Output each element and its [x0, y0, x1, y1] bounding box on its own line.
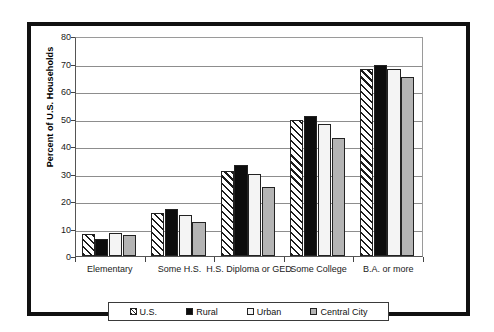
legend-label: U.S.	[140, 307, 158, 317]
y-tick-label-30: 30	[45, 171, 71, 180]
y-tick-label-50: 50	[45, 116, 71, 125]
bar	[221, 171, 234, 256]
bar-group	[285, 38, 355, 256]
x-axis-category-labels: ElementarySome H.S.H.S. Diploma or GEDSo…	[65, 264, 437, 298]
x-tick-mark	[423, 257, 424, 262]
bar	[82, 234, 95, 256]
bar	[179, 215, 192, 256]
bar	[374, 65, 387, 256]
legend-item[interactable]: Urban	[247, 307, 282, 317]
bar-group	[76, 38, 146, 256]
bar	[192, 222, 205, 256]
bar	[290, 120, 303, 256]
chart-figure-frame: Percent of U.S. Households 8070605040302…	[27, 22, 470, 316]
bar-group	[215, 38, 285, 256]
x-axis-tick-marks	[75, 257, 423, 263]
bar	[165, 209, 178, 256]
legend-swatch-icon	[310, 308, 317, 315]
legend-swatch-icon	[186, 308, 193, 315]
y-axis-tick-labels: 80706050403020100	[41, 37, 71, 257]
bar-group	[354, 38, 424, 256]
bar	[248, 174, 261, 257]
bar	[401, 77, 414, 256]
bar	[95, 239, 108, 256]
x-tick-mark	[214, 257, 215, 262]
bar	[109, 233, 122, 256]
y-tick-label-10: 10	[45, 226, 71, 235]
y-tick-label-20: 20	[45, 198, 71, 207]
legend-label: Urban	[257, 307, 282, 317]
bar	[332, 138, 345, 256]
bar-group	[146, 38, 216, 256]
x-tick-mark	[145, 257, 146, 262]
x-axis-label-4: B.A. or more	[343, 264, 433, 275]
legend-label: Central City	[320, 307, 367, 317]
bar	[304, 116, 317, 256]
legend-item[interactable]: U.S.	[130, 307, 158, 317]
x-tick-mark	[284, 257, 285, 262]
bar	[123, 235, 136, 256]
bar	[318, 124, 331, 256]
legend-swatch-icon	[130, 308, 137, 315]
legend-item[interactable]: Rural	[186, 307, 218, 317]
bar	[387, 69, 400, 256]
y-tick-label-80: 80	[45, 33, 71, 42]
bar	[234, 165, 247, 256]
legend-label: Rural	[196, 307, 218, 317]
legend-swatch-icon	[247, 308, 254, 315]
y-tick-label-70: 70	[45, 61, 71, 70]
chart-legend: U.S.RuralUrbanCentral City	[108, 302, 389, 321]
bar	[360, 69, 373, 256]
y-tick-label-0: 0	[45, 253, 71, 262]
legend-item[interactable]: Central City	[310, 307, 367, 317]
bar	[151, 213, 164, 256]
y-tick-label-40: 40	[45, 143, 71, 152]
bar	[262, 187, 275, 256]
y-tick-label-60: 60	[45, 88, 71, 97]
x-tick-mark	[75, 257, 76, 262]
plot-area	[75, 37, 423, 257]
x-tick-mark	[353, 257, 354, 262]
